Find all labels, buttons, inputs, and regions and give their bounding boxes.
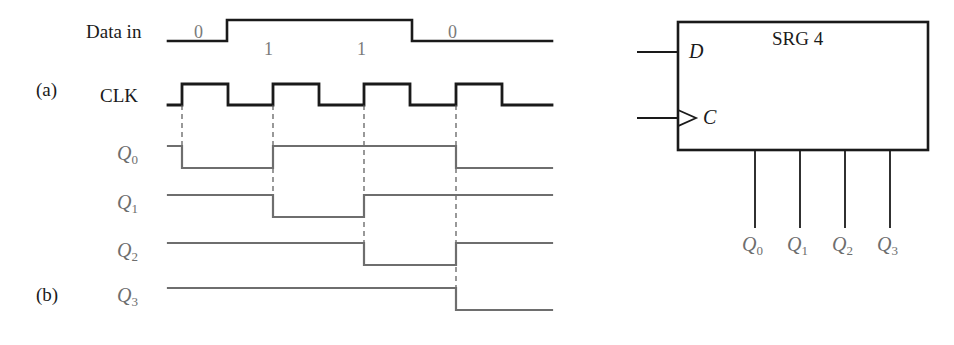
signal-label-q1-sub: 1 bbox=[131, 201, 138, 216]
signal-label-q1: Q1 bbox=[117, 192, 138, 212]
waveform-data-in bbox=[168, 20, 552, 41]
figure-vector-layer bbox=[0, 0, 954, 345]
dynamic-input-triangle-icon bbox=[678, 110, 696, 126]
shift-register-figure: (a) (b) Data in CLK Q0 Q1 Q2 Q3 0 1 1 0 … bbox=[0, 0, 954, 345]
output-label-q3-base: Q bbox=[877, 233, 891, 255]
signal-label-q1-base: Q bbox=[117, 191, 131, 213]
pin-label-d: D bbox=[689, 41, 703, 61]
signal-label-q3-sub: 3 bbox=[131, 294, 138, 309]
waveform-q3 bbox=[168, 288, 552, 310]
data-in-bit-1: 1 bbox=[264, 40, 273, 58]
waveform-q1 bbox=[168, 195, 552, 217]
data-in-bit-0: 0 bbox=[194, 23, 203, 41]
signal-label-q3: Q3 bbox=[117, 285, 138, 305]
srg4-symbol bbox=[637, 22, 928, 228]
output-label-q3-sub: 3 bbox=[891, 243, 898, 258]
output-label-q1-base: Q bbox=[787, 233, 801, 255]
pin-label-c: C bbox=[703, 107, 716, 127]
output-label-q2-sub: 2 bbox=[846, 243, 853, 258]
signal-label-q0-sub: 0 bbox=[131, 152, 138, 167]
part-a-label: (a) bbox=[36, 80, 57, 99]
signal-label-q3-base: Q bbox=[117, 284, 131, 306]
signal-label-q2-sub: 2 bbox=[131, 249, 138, 264]
data-in-bit-3: 0 bbox=[448, 23, 457, 41]
srg4-title: SRG 4 bbox=[772, 29, 823, 48]
signal-label-q2-base: Q bbox=[117, 239, 131, 261]
signal-label-q0: Q0 bbox=[117, 143, 138, 163]
waveform-q2 bbox=[168, 243, 552, 265]
waveform-q0 bbox=[168, 146, 552, 168]
waveform-clk bbox=[168, 84, 552, 105]
output-label-q2: Q2 bbox=[832, 234, 853, 254]
output-label-q2-base: Q bbox=[832, 233, 846, 255]
data-in-bit-2: 1 bbox=[357, 40, 366, 58]
output-label-q1-sub: 1 bbox=[801, 243, 808, 258]
output-label-q0-sub: 0 bbox=[756, 243, 763, 258]
signal-label-q2: Q2 bbox=[117, 240, 138, 260]
signal-label-data-in: Data in bbox=[86, 22, 141, 41]
clock-edge-reference-lines bbox=[182, 105, 456, 305]
part-b-label: (b) bbox=[36, 285, 58, 304]
output-label-q0: Q0 bbox=[742, 234, 763, 254]
output-label-q3: Q3 bbox=[877, 234, 898, 254]
signal-label-clk: CLK bbox=[100, 86, 138, 105]
signal-label-q0-base: Q bbox=[117, 142, 131, 164]
output-label-q0-base: Q bbox=[742, 233, 756, 255]
output-label-q1: Q1 bbox=[787, 234, 808, 254]
